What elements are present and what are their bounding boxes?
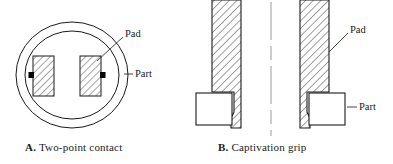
pad-leader-line-b [329, 33, 348, 52]
figure-canvas: Pad Part Pad [0, 0, 393, 164]
part-left [196, 93, 232, 125]
pad-right [80, 56, 101, 96]
caption-a-text: Two-point contact [39, 141, 123, 153]
caption-b-letter: B. [218, 141, 229, 153]
contact-point-left [29, 72, 35, 78]
pad-label-b: Pad [350, 24, 367, 35]
figure-root: Pad Part Pad [0, 0, 393, 164]
caption-panel-a: A. Two-point contact [25, 141, 122, 153]
part-right [309, 93, 345, 125]
part-label-b: Part [359, 101, 376, 112]
contact-point-right [100, 72, 106, 78]
pad-left [33, 56, 54, 96]
caption-b-text: Captivation grip [231, 141, 306, 153]
part-label: Part [135, 68, 152, 79]
caption-a-letter: A. [25, 141, 36, 153]
pad-label: Pad [125, 28, 142, 39]
panel-a-diagram: Pad Part [16, 22, 152, 128]
caption-panel-b: B. Captivation grip [218, 141, 306, 153]
panel-b-diagram: Pad Part [196, 0, 376, 136]
